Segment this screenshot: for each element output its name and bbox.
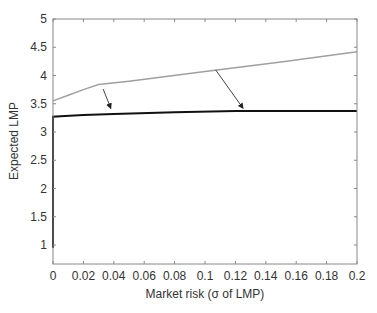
x-tick-label: 0.16 (285, 269, 309, 283)
y-tick-label: 4.5 (30, 40, 47, 54)
y-tick-label: 3 (40, 125, 47, 139)
x-tick-label: 0.18 (315, 269, 339, 283)
y-tick-label: 3.5 (30, 97, 47, 111)
y-tick-label: 2.5 (30, 153, 47, 167)
x-tick-label: 0.08 (163, 269, 187, 283)
plot-area (53, 52, 357, 248)
x-tick-label: 0.04 (102, 269, 126, 283)
y-tick-label: 4 (40, 69, 47, 83)
x-tick-label: 0.2 (349, 269, 366, 283)
y-tick-label: 1.5 (30, 210, 47, 224)
x-tick-label: 0 (50, 269, 57, 283)
arrow-annotation (216, 70, 243, 108)
axes-frame (53, 19, 357, 264)
x-axis-label: Market risk (σ of LMP) (146, 287, 265, 301)
y-axis-label: Expected LMP (7, 102, 21, 180)
series-lower-line (53, 111, 357, 248)
x-tick-label: 0.06 (133, 269, 157, 283)
axes: 00.020.040.060.080.10.120.140.160.180.21… (30, 12, 365, 283)
series-upper-line (53, 52, 357, 101)
x-tick-label: 0.12 (224, 269, 248, 283)
x-tick-label: 0.14 (254, 269, 278, 283)
line-chart: 00.020.040.060.080.10.120.140.160.180.21… (0, 0, 377, 313)
y-tick-label: 2 (40, 182, 47, 196)
x-tick-label: 0.02 (72, 269, 96, 283)
x-tick-label: 0.1 (197, 269, 214, 283)
y-tick-label: 1 (40, 238, 47, 252)
arrow-annotation (103, 89, 111, 108)
y-tick-label: 5 (40, 12, 47, 26)
